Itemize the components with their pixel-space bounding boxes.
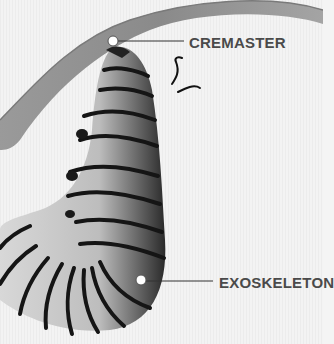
exoskeleton-marker (136, 275, 146, 285)
cremaster-marker (108, 36, 118, 46)
exoskeleton-label: EXOSKELETON (219, 274, 334, 291)
cremaster-label: CREMASTER (189, 34, 286, 51)
